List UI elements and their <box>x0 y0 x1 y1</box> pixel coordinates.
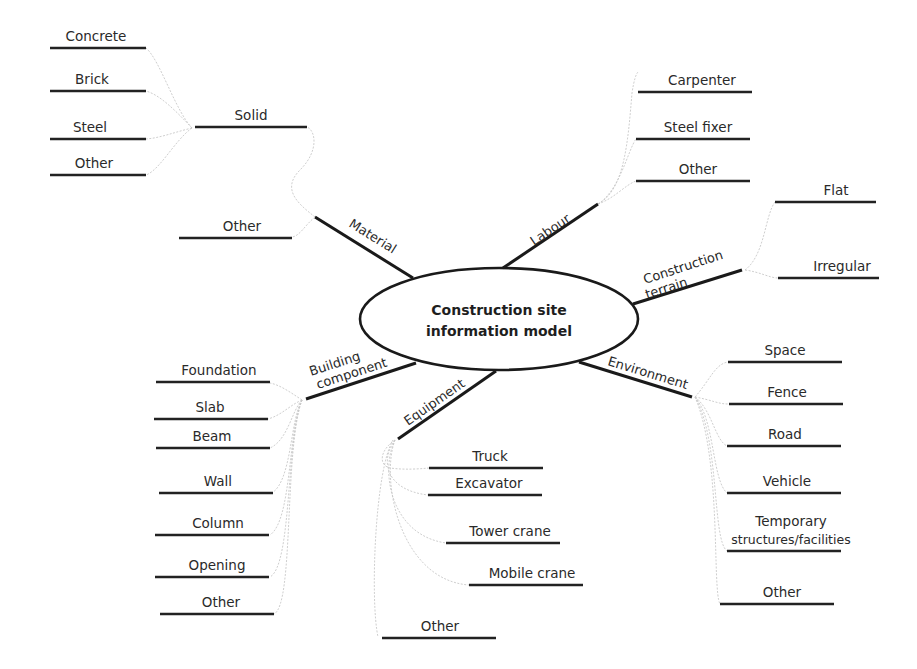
branch-material: Material Solid Concrete Brick Steel Othe… <box>50 28 413 278</box>
mind-map: Construction site information model Mate… <box>0 0 917 669</box>
fence-label: Fence <box>767 384 807 400</box>
bc-to-beam <box>270 400 302 448</box>
labour-other-label: Other <box>679 161 718 177</box>
center-node: Construction site information model <box>360 268 638 370</box>
material-to-solid-connector <box>292 127 315 217</box>
temporary-label-line2: structures/facilities <box>731 532 850 547</box>
env-to-space <box>695 362 728 397</box>
solid-to-other <box>146 128 192 175</box>
center-title-line2: information model <box>426 323 572 339</box>
equip-to-excavator <box>387 440 428 495</box>
bc-to-opening <box>270 400 302 577</box>
env-other-label: Other <box>763 584 802 600</box>
flat-label: Flat <box>823 182 848 198</box>
steel-label: Steel <box>73 119 107 135</box>
bc-to-foundation <box>270 383 302 400</box>
terrain-to-irregular <box>745 270 778 278</box>
solid-to-concrete <box>146 48 192 128</box>
material-other-label: Other <box>223 218 262 234</box>
temporary-label-line1: Temporary <box>754 513 827 529</box>
labour-label: Labour <box>527 211 573 249</box>
solid-to-brick <box>146 91 192 128</box>
branch-construction-terrain: Construction terrain Flat Irregular <box>633 182 879 304</box>
terrain-to-flat <box>745 202 775 270</box>
labour-to-carpenter <box>598 72 638 204</box>
labour-to-steelfixer <box>598 139 636 204</box>
branch-environment: Environment Space Fence Road Vehicle Tem… <box>579 342 851 604</box>
concrete-label: Concrete <box>66 28 127 44</box>
truck-label: Truck <box>471 448 508 464</box>
bc-to-slab <box>268 400 302 419</box>
brick-label: Brick <box>75 71 109 87</box>
equip-to-towercrane <box>389 440 446 543</box>
equipment-branch-line <box>398 371 496 439</box>
center-ellipse <box>360 268 638 370</box>
bc-to-other <box>274 400 302 614</box>
solid-other-label: Other <box>75 155 114 171</box>
env-to-fence <box>695 397 728 404</box>
branch-building-component: Building component Foundation Slab Beam … <box>154 348 416 614</box>
excavator-label: Excavator <box>455 475 523 491</box>
equipment-label: Equipment <box>401 376 467 429</box>
carpenter-label: Carpenter <box>668 72 736 88</box>
material-label: Material <box>346 216 399 257</box>
wall-label: Wall <box>204 473 232 489</box>
steelfixer-label: Steel fixer <box>664 119 733 135</box>
beam-label: Beam <box>193 428 232 444</box>
vehicle-label: Vehicle <box>763 473 811 489</box>
opening-label: Opening <box>189 557 246 573</box>
solid-label: Solid <box>235 107 268 123</box>
mobilecrane-label: Mobile crane <box>489 565 576 581</box>
foundation-label: Foundation <box>181 362 256 378</box>
branch-equipment: Equipment Truck Excavator Tower crane Mo… <box>374 371 583 638</box>
material-to-other-connector <box>292 217 315 237</box>
equip-to-other <box>374 440 393 637</box>
labour-to-other <box>598 181 636 204</box>
slab-label: Slab <box>195 399 224 415</box>
branch-labour: Labour Carpenter Steel fixer Other <box>503 72 752 268</box>
bc-to-column <box>270 400 302 535</box>
bc-other-label: Other <box>202 594 241 610</box>
equip-other-label: Other <box>421 618 460 634</box>
center-title-line1: Construction site <box>431 302 566 318</box>
equip-to-mobilecrane <box>390 440 469 585</box>
towercrane-label: Tower crane <box>468 523 551 539</box>
space-label: Space <box>764 342 805 358</box>
road-label: Road <box>768 426 802 442</box>
column-label: Column <box>192 515 244 531</box>
irregular-label: Irregular <box>813 258 871 274</box>
